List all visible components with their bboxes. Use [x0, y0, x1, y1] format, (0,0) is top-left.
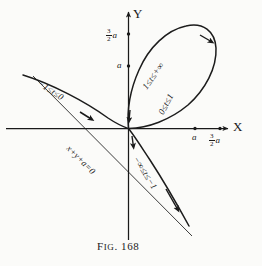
x-tick-a — [193, 127, 196, 130]
caption-ig: IG — [104, 242, 115, 252]
y-tick-a — [127, 64, 130, 67]
figure-folium-of-descartes: X Y 3 2 a a a 3 2 a 1≤t≤+∞ 0≤t≤1 −1≤t≤0 … — [0, 0, 262, 266]
y-axis-label: Y — [133, 7, 142, 20]
arrow-loop-top — [200, 35, 212, 42]
x-tick-three-halves-a — [218, 127, 221, 130]
figure-graphics — [0, 0, 262, 266]
x-tick-label-three-halves-a: 3 2 a — [209, 133, 220, 148]
fraction-three-halves: 3 2 — [209, 133, 215, 148]
y-tick-label-a: a — [117, 61, 122, 70]
arrow-lower-branch-start — [132, 136, 134, 147]
y-tick-three-halves-a — [127, 32, 130, 35]
caption-f: F — [97, 240, 104, 252]
y-tick-unit-a: a — [113, 30, 118, 40]
arrow-upper-left-branch — [80, 112, 92, 120]
curve-folium — [23, 25, 216, 226]
figure-caption: FIG. 168 — [97, 240, 139, 252]
x-tick-unit-a: a — [216, 135, 221, 145]
arrow-loop-left — [129, 110, 130, 121]
arrow-lower-right-branch — [166, 189, 178, 210]
fraction-three-halves: 3 2 — [106, 28, 112, 43]
x-tick-label-a: a — [192, 133, 197, 142]
caption-number: . 168 — [114, 240, 139, 252]
y-tick-label-three-halves-a: 3 2 a — [106, 28, 117, 43]
x-axis — [6, 127, 228, 130]
x-axis-label: X — [233, 120, 242, 133]
